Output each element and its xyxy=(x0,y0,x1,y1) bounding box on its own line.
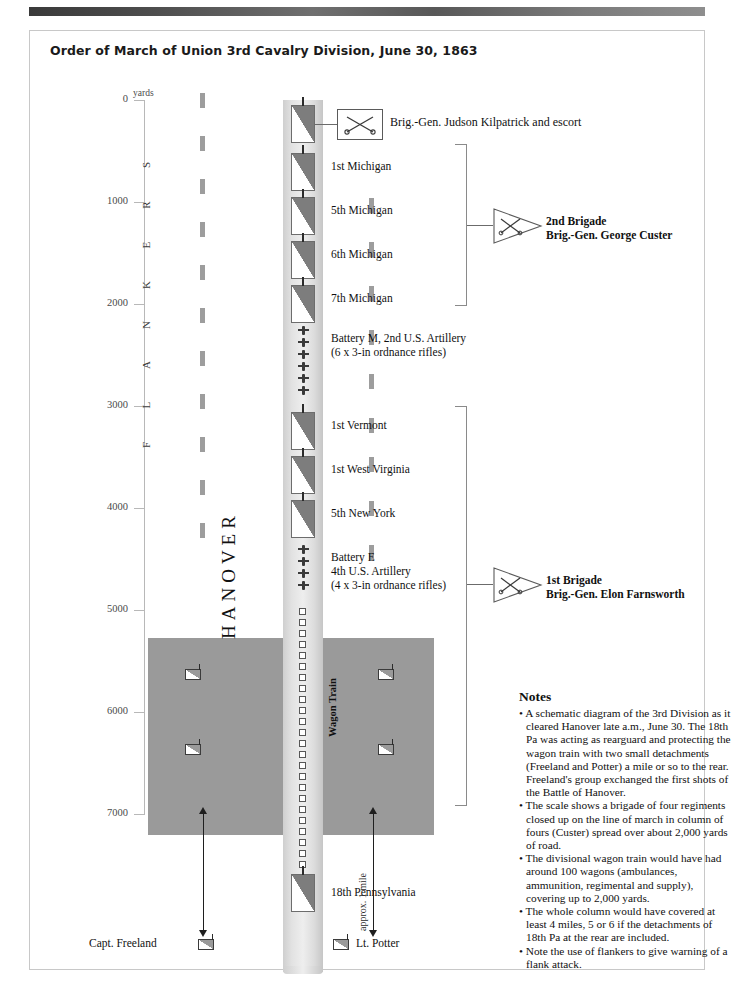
scale-tick-label: 6000 xyxy=(82,705,128,716)
scale-unit-label: yards xyxy=(133,88,154,98)
flanker-marker xyxy=(369,374,374,389)
artillery-gun-icon xyxy=(298,581,309,590)
unit-symbol-regiment xyxy=(291,456,315,494)
brigade-symbol-pennant xyxy=(493,567,543,603)
artillery-gun-icon xyxy=(298,386,309,395)
wagon-icon xyxy=(299,685,306,692)
flanker-marker xyxy=(200,437,205,452)
hq-label: Brig.-Gen. Judson Kilpatrick and escort xyxy=(390,116,581,130)
unit-symbol-regiment xyxy=(291,197,315,235)
scale-tick xyxy=(134,304,144,305)
artillery-gun-icon xyxy=(298,326,309,335)
wagon-icon xyxy=(299,795,306,802)
note-item: • Note the use of flankers to give warni… xyxy=(519,945,733,971)
flankers-letter: S xyxy=(140,157,152,173)
distance-line-left xyxy=(203,813,204,930)
flankers-letter: R xyxy=(140,197,152,213)
artillery-gun-icon xyxy=(298,569,309,578)
hq-symbol-box xyxy=(337,109,383,140)
town-name-label: HANOVER xyxy=(218,511,240,639)
unit-symbol-regiment xyxy=(291,153,315,191)
road-column-end xyxy=(283,966,323,974)
flanker-marker xyxy=(200,222,205,237)
scale-tick-label: 2000 xyxy=(82,297,128,308)
wagon-icon xyxy=(299,663,306,670)
scale-tick-label: 4000 xyxy=(82,501,128,512)
brigade-commander: Brig.-Gen. George Custer xyxy=(546,229,672,243)
scale-tick xyxy=(134,814,144,815)
crossed-sabers-pennant-icon xyxy=(493,208,543,244)
artillery-gun-icon xyxy=(298,374,309,383)
wagon-icon xyxy=(299,828,306,835)
note-item: • The whole column would have covered at… xyxy=(519,905,733,945)
wagon-icon xyxy=(299,707,306,714)
unit-label-detail: 4th U.S. Artillery xyxy=(331,565,411,579)
detachment-label-freeland: Capt. Freeland xyxy=(89,937,157,949)
unit-label-detail: (6 x 3-in ordnance rifles) xyxy=(331,346,446,360)
wagon-icon xyxy=(299,751,306,758)
notes-panel: Notes • A schematic diagram of the 3rd D… xyxy=(519,689,733,971)
wagon-icon xyxy=(299,806,306,813)
flanker-detachment-icon xyxy=(378,744,394,755)
flanker-marker xyxy=(200,480,205,495)
artillery-gun-icon xyxy=(298,557,309,566)
notes-heading: Notes xyxy=(519,689,733,705)
leader-line xyxy=(467,584,493,585)
arrow-up-icon xyxy=(369,807,377,814)
wagon-icon xyxy=(299,696,306,703)
scale-tick xyxy=(134,100,144,101)
flanker-marker xyxy=(200,394,205,409)
unit-symbol-regiment xyxy=(291,285,315,323)
crossed-sabers-pennant-icon xyxy=(493,567,543,603)
flanker-marker xyxy=(200,523,205,538)
scale-tick xyxy=(134,712,144,713)
unit-label: 1st West Virginia xyxy=(331,463,410,477)
crossed-sabers-icon xyxy=(338,110,382,139)
unit-label: 1st Michigan xyxy=(331,160,391,174)
scale-tick-label: 0 xyxy=(82,93,128,104)
flankers-letter: E xyxy=(140,237,152,253)
note-item: • The scale shows a brigade of four regi… xyxy=(519,799,733,852)
arrow-up-icon xyxy=(199,807,207,814)
note-item: • A schematic diagram of the 3rd Divisio… xyxy=(519,707,733,799)
unit-label: 6th Michigan xyxy=(331,248,393,262)
unit-symbol-hq-escort xyxy=(291,105,315,143)
distance-label: approx. 1 mile xyxy=(357,873,368,931)
wagon-icon xyxy=(299,619,306,626)
flanker-marker xyxy=(200,179,205,194)
unit-label: 5th Michigan xyxy=(331,204,393,218)
unit-symbol-regiment xyxy=(291,874,315,912)
unit-label-detail: (4 x 3-in ordnance rifles) xyxy=(331,579,446,593)
wagon-icon xyxy=(299,762,306,769)
brigade-bracket xyxy=(455,144,467,306)
scale-tick-label: 3000 xyxy=(82,399,128,410)
unit-label: 7th Michigan xyxy=(331,292,393,306)
brigade-commander: Brig.-Gen. Elon Farnsworth xyxy=(546,588,685,602)
artillery-gun-icon xyxy=(298,362,309,371)
wagon-icon xyxy=(299,817,306,824)
leader-line xyxy=(467,225,493,226)
flanker-marker xyxy=(200,136,205,151)
flankers-letter: A xyxy=(140,357,152,373)
unit-label: 5th New York xyxy=(331,507,395,521)
header-bar xyxy=(29,7,705,16)
unit-symbol-regiment xyxy=(291,412,315,450)
detachment-icon-freeland xyxy=(198,939,214,950)
arrow-down-icon xyxy=(369,930,377,937)
arrow-down-icon xyxy=(199,930,207,937)
wagon-icon xyxy=(299,608,306,615)
wagon-icon xyxy=(299,740,306,747)
brigade-bracket xyxy=(455,406,467,806)
wagon-icon xyxy=(299,630,306,637)
wagon-icon xyxy=(299,850,306,857)
wagon-icon xyxy=(299,718,306,725)
detachment-icon-potter xyxy=(333,939,349,950)
unit-label: Battery M, 2nd U.S. Artillery xyxy=(331,332,466,346)
scale-tick xyxy=(134,508,144,509)
scale-tick-label: 5000 xyxy=(82,603,128,614)
flanker-marker xyxy=(200,93,205,108)
note-item: • The divisional wagon train would have … xyxy=(519,852,733,905)
wagon-train-label: Wagon Train xyxy=(327,678,338,737)
brigade-name: 1st Brigade xyxy=(546,574,602,588)
town-block-right xyxy=(323,638,434,835)
